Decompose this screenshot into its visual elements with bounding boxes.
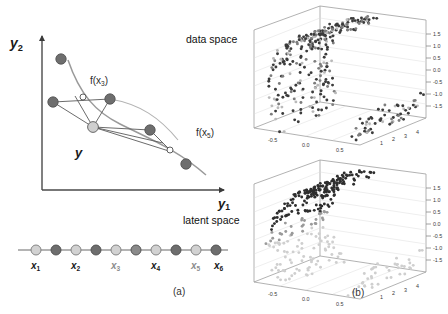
svg-text:4: 4 — [416, 129, 419, 135]
svg-text:0.0: 0.0 — [433, 67, 441, 73]
svg-text:0.5: 0.5 — [433, 209, 441, 215]
caption-b: (b) — [352, 288, 364, 298]
connector-lines — [53, 96, 172, 152]
plot-top-points — [267, 15, 425, 141]
scatter3d-top-canvas: 1.5 1.0 0.5 0.0 -0.5 -1.0 -1.5 -0.5 0.0 … — [240, 2, 448, 157]
svg-text:1: 1 — [380, 294, 383, 300]
scatter3d-bottom-canvas: 1.5 1.0 0.5 0.0 -0.5 -1.0 -1.5 -0.5 0.0 … — [240, 156, 448, 311]
latent-label-x5: x5 — [191, 261, 200, 272]
svg-text:-1.0: -1.0 — [433, 91, 442, 97]
svg-text:-1.5: -1.5 — [433, 257, 442, 263]
plot-top-y-ticks: 1 2 3 4 — [380, 129, 419, 146]
y-point — [88, 122, 99, 133]
latent-label-x6: x6 — [214, 261, 223, 272]
plot-bot-z-ticks: 1.5 1.0 0.5 0.0 -0.5 -1.0 -1.5 — [426, 185, 442, 263]
axis-label-y2-sub: 2 — [18, 43, 23, 53]
axis-label-y1-sub: 1 — [225, 202, 230, 212]
plot-bot-points — [265, 169, 424, 297]
panel-b-plots: 1.5 1.0 0.5 0.0 -0.5 -1.0 -1.5 -0.5 0.0 … — [240, 0, 448, 314]
svg-text:-0.5: -0.5 — [433, 233, 442, 239]
manifold-curve-secondary — [110, 99, 178, 140]
svg-text:3: 3 — [404, 287, 407, 293]
plot-bot-x-ticks: -0.5 0.0 0.5 — [268, 291, 344, 307]
svg-text:-0.5: -0.5 — [433, 79, 442, 85]
svg-text:2: 2 — [392, 136, 395, 142]
latent-label-x6-sub: 6 — [220, 265, 224, 272]
svg-text:0.5: 0.5 — [433, 55, 441, 61]
svg-text:4: 4 — [416, 283, 419, 289]
latent-label-x4: x4 — [151, 261, 160, 272]
svg-text:0.5: 0.5 — [336, 301, 344, 307]
svg-text:2: 2 — [392, 290, 395, 296]
plot-top-x-ticks: -0.5 0.0 0.5 — [268, 137, 344, 153]
svg-text:1: 1 — [380, 140, 383, 146]
point-label-y: y — [75, 146, 82, 159]
svg-text:-0.5: -0.5 — [268, 137, 277, 143]
data-space-title: data space — [186, 34, 237, 45]
latent-label-x3-sub: 3 — [117, 265, 121, 272]
axis-label-y1: y1 — [218, 197, 230, 212]
scatter3d-bottom: 1.5 1.0 0.5 0.0 -0.5 -1.0 -1.5 -0.5 0.0 … — [240, 156, 448, 311]
svg-text:-1.0: -1.0 — [433, 245, 442, 251]
manifold-curve — [68, 60, 206, 175]
svg-text:0.0: 0.0 — [302, 142, 310, 148]
figure-root: y2 y1 y f(x3) f(x5) data space latent sp… — [0, 0, 448, 314]
caption-a: (a) — [173, 287, 185, 297]
svg-text:1.5: 1.5 — [433, 31, 441, 37]
latent-label-x2-sub: 2 — [77, 265, 81, 272]
svg-text:1.5: 1.5 — [433, 185, 441, 191]
svg-text:1.0: 1.0 — [433, 43, 441, 49]
svg-text:0.0: 0.0 — [433, 221, 441, 227]
svg-text:-0.5: -0.5 — [268, 291, 277, 297]
svg-text:1.0: 1.0 — [433, 197, 441, 203]
map-label-fx3: f(x3) — [90, 76, 108, 87]
plot-bot-y-ticks: 1 2 3 4 — [380, 283, 419, 300]
plot-top-z-ticks: 1.5 1.0 0.5 0.0 -0.5 -1.0 -1.5 — [426, 31, 442, 109]
latent-label-x5-sub: 5 — [197, 265, 201, 272]
svg-text:3: 3 — [404, 133, 407, 139]
svg-text:0.5: 0.5 — [336, 147, 344, 153]
svg-text:-1.5: -1.5 — [433, 103, 442, 109]
latent-space-title: latent space — [183, 215, 240, 226]
svg-text:0.0: 0.0 — [302, 296, 310, 302]
latent-label-x1: x1 — [31, 261, 40, 272]
latent-label-x1-sub: 1 — [37, 265, 41, 272]
latent-label-x4-sub: 4 — [157, 265, 161, 272]
axis-label-y2: y2 — [10, 36, 23, 53]
map-label-fx5: f(x5) — [196, 128, 214, 139]
latent-label-x3: x3 — [111, 261, 120, 272]
latent-label-x2: x2 — [71, 261, 80, 272]
scatter3d-top: 1.5 1.0 0.5 0.0 -0.5 -1.0 -1.5 -0.5 0.0 … — [240, 2, 448, 157]
panel-a-diagram: y2 y1 y f(x3) f(x5) data space latent sp… — [0, 0, 240, 314]
